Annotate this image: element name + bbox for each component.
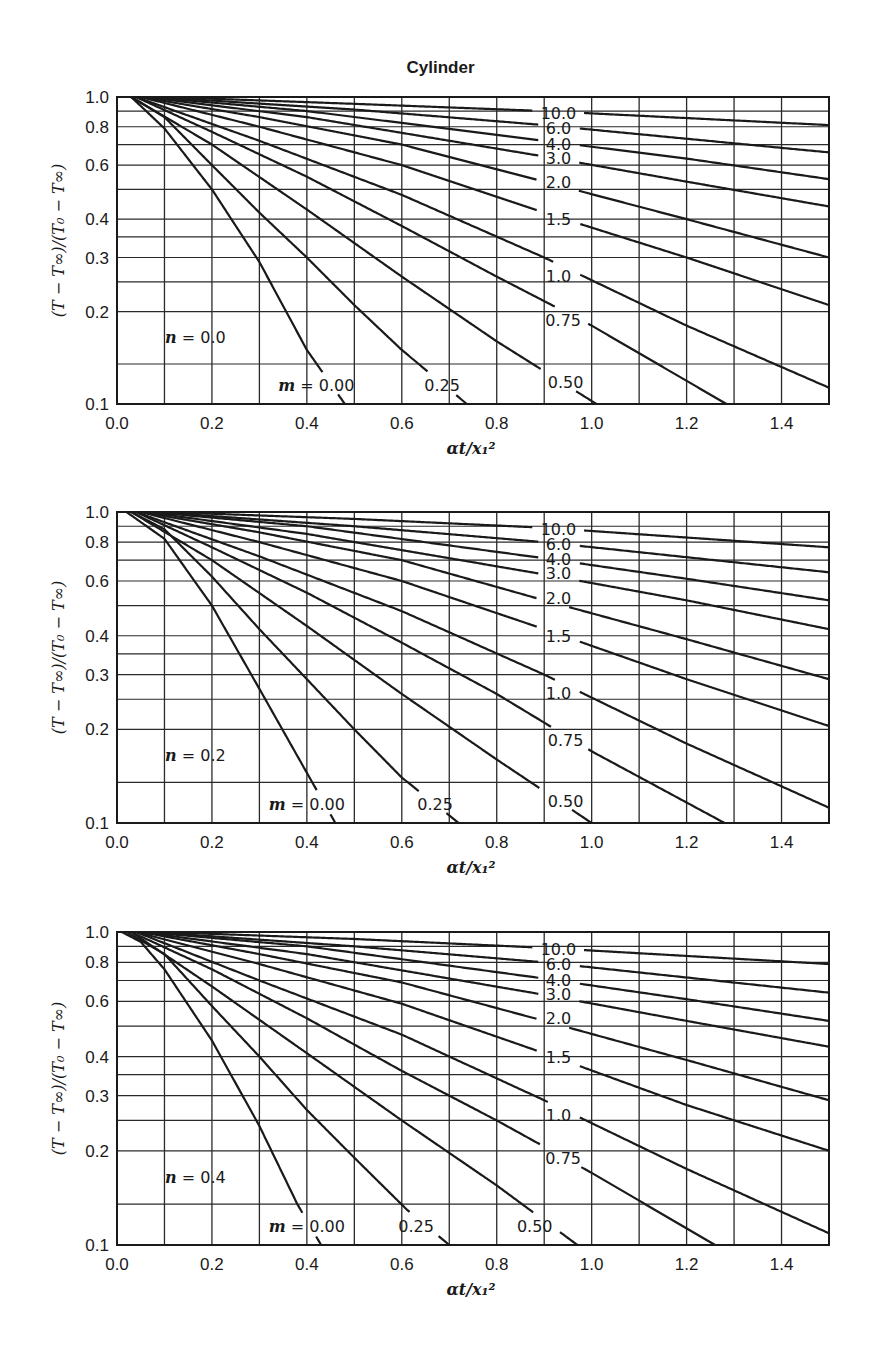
chart-panel-n04: m = 0.000.250.500.751.01.52.03.04.06.010… (0, 0, 877, 1358)
y-tick-label: 0.3 (85, 1087, 109, 1106)
panel-n-label: n = 0.4 (165, 1168, 226, 1187)
curve-m-0.50 (560, 1232, 577, 1245)
x-tick-label: 1.2 (675, 1255, 699, 1274)
y-tick-label: 0.4 (85, 1048, 109, 1067)
curve-label-m-2.0: 2.0 (546, 1009, 571, 1028)
grid (117, 932, 829, 1245)
curve-m-1.5 (580, 1066, 829, 1151)
curve-label-m-0.25: 0.25 (398, 1217, 434, 1236)
curve-label-m-1.5: 1.5 (546, 1048, 571, 1067)
curve-label-m-1.0: 1.0 (546, 1106, 571, 1125)
x-tick-label: 0.4 (295, 1255, 319, 1274)
plot-frame (117, 932, 829, 1245)
x-tick-label: 0.2 (200, 1255, 224, 1274)
curve-label-m-10.0: 10.0 (541, 940, 577, 959)
curve-label-m-0.00: m = 0.00 (269, 1217, 345, 1236)
x-tick-label: 1.4 (770, 1255, 794, 1274)
y-tick-label: 0.1 (85, 1236, 109, 1255)
curve-m-0.00 (316, 1237, 321, 1245)
y-tick-label: 0.2 (85, 1142, 109, 1161)
curve-m-0.75 (581, 1167, 715, 1245)
y-axis-label: (T − T∞)/(T₀ − T∞) (49, 1002, 68, 1155)
curve-label-m-0.75: 0.75 (545, 1149, 581, 1168)
y-tick-label: 1.0 (85, 923, 109, 942)
x-axis-label: αt/x₁² (446, 1280, 495, 1299)
y-tick-label: 0.8 (85, 953, 109, 972)
curve-m-0.25 (439, 1236, 450, 1245)
x-tick-label: 0.0 (105, 1255, 129, 1274)
curve-m-0.75 (131, 932, 540, 1144)
y-tick-label: 0.6 (85, 992, 109, 1011)
curve-m-1.0 (580, 1117, 829, 1233)
x-tick-label: 0.6 (390, 1255, 414, 1274)
x-tick-label: 1.0 (580, 1255, 604, 1274)
curves (122, 932, 829, 1245)
curve-label-m-0.50: 0.50 (517, 1217, 553, 1236)
x-tick-label: 0.8 (485, 1255, 509, 1274)
